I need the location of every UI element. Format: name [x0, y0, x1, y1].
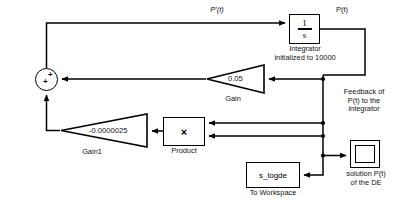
- integrator-block[interactable]: 1 s: [289, 14, 320, 44]
- wire-gain1-to-sum: [47, 95, 61, 131]
- sum-sign-plus-2: +: [43, 78, 48, 86]
- to-workspace-caption: To Workspace: [238, 189, 308, 198]
- scope-screen-icon: [355, 145, 375, 163]
- junction-dot-product-1: [321, 121, 325, 125]
- feedback-annotation: Feedback of P(t) to the integrator: [328, 88, 400, 114]
- integrator-caption: Integrator initialized to 10000: [255, 45, 355, 62]
- sum-block[interactable]: + +: [35, 68, 58, 91]
- gain1-caption: Gain1: [68, 148, 116, 157]
- product-caption: Product: [156, 147, 212, 156]
- product-block[interactable]: ×: [163, 117, 205, 146]
- gain1-value: -0.0000025: [89, 126, 127, 135]
- block-diagram-canvas: + + 1 s Integrator initialized to 10000 …: [0, 0, 403, 212]
- wire-sum-to-integrator: [47, 23, 286, 68]
- gain-caption: Gain: [210, 95, 256, 104]
- integrator-numerator: 1: [302, 18, 307, 28]
- scope-caption: solution P(t) of the DE: [330, 170, 402, 187]
- signal-label-output: P(t): [325, 5, 359, 14]
- gain-block[interactable]: 0.05: [206, 64, 265, 94]
- gain-value: 0.05: [228, 74, 243, 83]
- scope-block[interactable]: [350, 140, 380, 168]
- wire-trunk-to-workspace: [304, 156, 323, 176]
- junction-dot-scope: [321, 153, 325, 157]
- junction-dot-product-2: [321, 134, 325, 138]
- signal-label-derivative: P'(t): [196, 5, 238, 14]
- junction-dot-gain: [321, 77, 325, 81]
- sum-sign-plus-1: +: [48, 71, 53, 79]
- gain1-block[interactable]: -0.0000025: [60, 113, 148, 148]
- to-workspace-variable: s_logde: [259, 171, 287, 180]
- to-workspace-block[interactable]: s_logde: [246, 162, 300, 188]
- integrator-denominator: s: [303, 30, 307, 40]
- product-symbol: ×: [181, 126, 187, 138]
